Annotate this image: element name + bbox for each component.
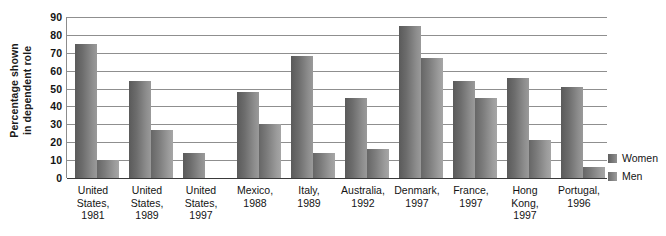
bar-women[interactable]	[453, 81, 475, 178]
x-axis-label: Australia,1992	[336, 182, 390, 236]
bar-men[interactable]	[259, 124, 281, 178]
bar-groups	[67, 17, 607, 178]
legend-label: Men	[622, 170, 642, 182]
plot-area	[66, 17, 607, 178]
bar-men[interactable]	[151, 130, 173, 178]
bar-men[interactable]	[97, 160, 119, 178]
bar-men[interactable]	[313, 153, 335, 178]
legend: WomenMen	[608, 150, 666, 186]
bar-women[interactable]	[75, 44, 97, 178]
bar-men[interactable]	[475, 98, 497, 179]
bar-chart: Percentage shown in dependent role 01020…	[0, 0, 666, 236]
x-axis-tick-labels: UnitedStates,1981UnitedStates,1989United…	[66, 182, 606, 236]
bar-group	[499, 17, 553, 178]
x-axis-label-line: France,	[444, 184, 498, 197]
x-axis-label-line: 1997	[390, 197, 444, 210]
y-axis-tick-0: 0	[36, 172, 62, 184]
x-axis-label: France,1997	[444, 182, 498, 236]
y-axis-tick-20: 20	[36, 136, 62, 148]
x-axis-label: HongKong,1997	[498, 182, 552, 236]
bar-group	[175, 17, 229, 178]
x-axis-label-line: 1989	[282, 197, 336, 210]
bar-men[interactable]	[421, 58, 443, 178]
x-axis-label: Portugal,1996	[552, 182, 606, 236]
x-axis-label-line: Kong,	[498, 197, 552, 210]
bar-group	[229, 17, 283, 178]
x-axis-label: Mexico,1988	[228, 182, 282, 236]
x-axis-label-line: Portugal,	[552, 184, 606, 197]
legend-item-men[interactable]: Men	[608, 168, 666, 184]
legend-label: Women	[622, 152, 658, 164]
bar-women[interactable]	[237, 92, 259, 178]
x-axis-label-line: 1997	[174, 209, 228, 222]
bar-women[interactable]	[291, 56, 313, 178]
x-axis-label-line: States,	[174, 197, 228, 210]
x-axis-label-line: United	[174, 184, 228, 197]
bar-group	[553, 17, 607, 178]
bar-group	[121, 17, 175, 178]
bar-group	[391, 17, 445, 178]
x-axis-label-line: States,	[120, 197, 174, 210]
y-axis-tick-90: 90	[36, 11, 62, 23]
bar-women[interactable]	[507, 78, 529, 178]
x-axis-label-line: Hong	[498, 184, 552, 197]
bar-men[interactable]	[367, 149, 389, 178]
x-axis-label: UnitedStates,1981	[66, 182, 120, 236]
x-axis-label-line: 1989	[120, 209, 174, 222]
x-axis-label-line: Australia,	[336, 184, 390, 197]
bar-men[interactable]	[529, 140, 551, 178]
y-axis-title-line-2: in dependent role	[20, 43, 33, 137]
y-axis-tick-10: 10	[36, 154, 62, 166]
y-axis-tick-60: 60	[36, 65, 62, 77]
x-axis-label-line: Mexico,	[228, 184, 282, 197]
bar-women[interactable]	[561, 87, 583, 178]
x-axis-label-line: 1997	[444, 197, 498, 210]
x-axis-label: UnitedStates,1989	[120, 182, 174, 236]
bar-women[interactable]	[345, 98, 367, 179]
legend-item-women[interactable]: Women	[608, 150, 666, 166]
y-axis-tick-70: 70	[36, 47, 62, 59]
y-axis-tick-50: 50	[36, 83, 62, 95]
bar-group	[283, 17, 337, 178]
x-axis-label-line: 1988	[228, 197, 282, 210]
y-axis-title-line-1: Percentage shown	[8, 43, 21, 137]
x-axis-label: UnitedStates,1997	[174, 182, 228, 236]
x-axis-label-line: United	[120, 184, 174, 197]
x-axis-label-line: Denmark,	[390, 184, 444, 197]
bar-group	[337, 17, 391, 178]
x-axis-label-line: United	[66, 184, 120, 197]
bar-women[interactable]	[129, 81, 151, 178]
bar-women[interactable]	[183, 153, 205, 178]
bar-group	[67, 17, 121, 178]
y-axis-tick-80: 80	[36, 29, 62, 41]
x-axis-line	[67, 178, 607, 179]
x-axis-label-line: 1997	[498, 209, 552, 222]
x-axis-label: Italy,1989	[282, 182, 336, 236]
bar-group	[445, 17, 499, 178]
bar-women[interactable]	[399, 26, 421, 178]
y-axis-tick-labels: 0102030405060708090	[36, 10, 62, 186]
x-axis-label-line: 1981	[66, 209, 120, 222]
x-axis-label-line: States,	[66, 197, 120, 210]
x-axis-label-line: 1996	[552, 197, 606, 210]
x-axis-label-line: 1992	[336, 197, 390, 210]
men-swatch	[608, 172, 617, 181]
women-swatch	[608, 154, 617, 163]
y-axis-tick-30: 30	[36, 118, 62, 130]
x-axis-label-line: Italy,	[282, 184, 336, 197]
y-axis-tick-40: 40	[36, 100, 62, 112]
bar-men[interactable]	[583, 167, 605, 178]
y-axis-title: Percentage shown in dependent role	[0, 0, 40, 180]
x-axis-label: Denmark,1997	[390, 182, 444, 236]
